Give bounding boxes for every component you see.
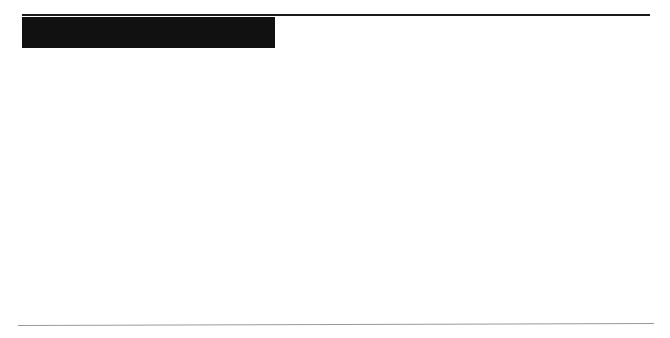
charts-container (0, 0, 670, 338)
chart-canvas (0, 0, 670, 338)
figure-page (0, 0, 670, 338)
